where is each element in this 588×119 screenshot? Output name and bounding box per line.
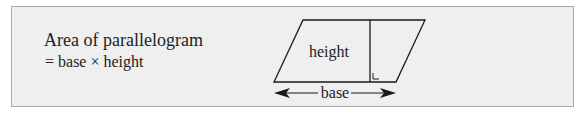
height-label: height bbox=[309, 43, 350, 61]
right-angle-icon bbox=[373, 73, 379, 79]
base-label: base bbox=[321, 84, 349, 101]
parallelogram-diagram: height base bbox=[0, 0, 588, 119]
parallelogram-shape bbox=[274, 20, 425, 82]
